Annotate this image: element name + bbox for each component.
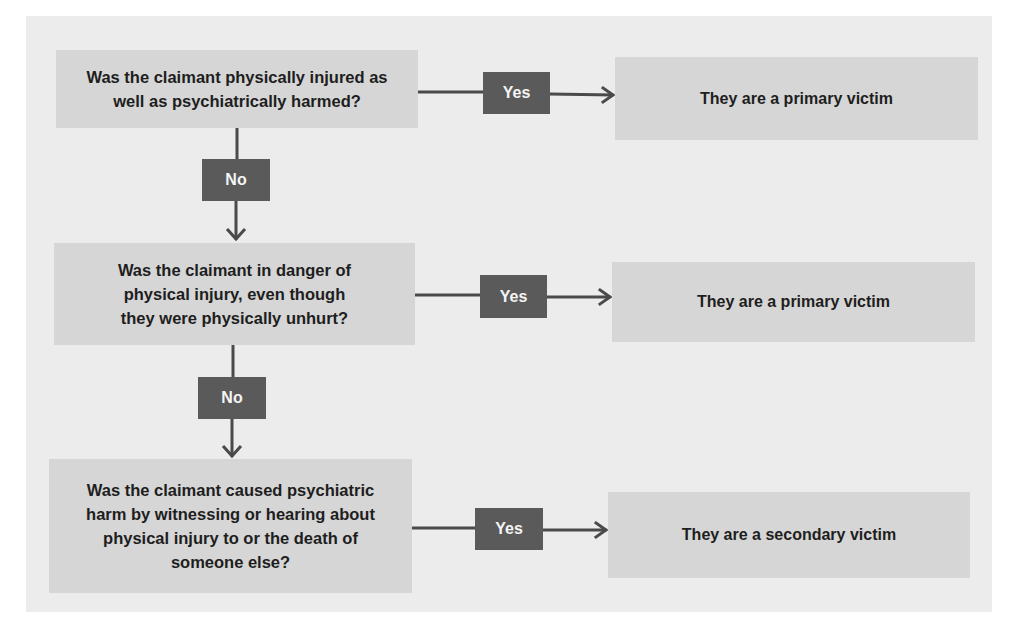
outcome-text-1: They are a primary victim	[700, 87, 893, 111]
outcome-text-3: They are a secondary victim	[682, 523, 896, 547]
yes-label-1: Yes	[483, 72, 550, 114]
question-text-2: Was the claimant in danger of physical i…	[110, 258, 360, 330]
no-label-1: No	[202, 159, 270, 201]
question-box-1: Was the claimant physically injured as w…	[56, 50, 418, 128]
question-box-2: Was the claimant in danger of physical i…	[54, 243, 415, 345]
outcome-box-1: They are a primary victim	[615, 57, 978, 140]
question-box-3: Was the claimant caused psychiatric harm…	[49, 459, 412, 593]
yes-label-2: Yes	[480, 275, 547, 318]
outcome-text-2: They are a primary victim	[697, 290, 890, 314]
yes-label-3: Yes	[475, 508, 543, 550]
connector-yes1-outcome	[550, 94, 612, 95]
outcome-box-2: They are a primary victim	[612, 262, 975, 342]
question-text-1: Was the claimant physically injured as w…	[72, 65, 402, 113]
no-label-2: No	[198, 377, 266, 419]
outcome-box-3: They are a secondary victim	[608, 492, 970, 578]
question-text-3: Was the claimant caused psychiatric harm…	[71, 478, 391, 574]
